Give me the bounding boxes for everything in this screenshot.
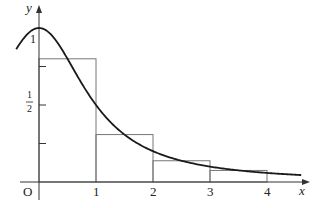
svg-text:2: 2 (27, 103, 32, 114)
svg-text:1: 1 (27, 89, 32, 100)
x-tick-label: 1 (93, 184, 100, 199)
curve (16, 28, 301, 175)
y-ticks (39, 67, 46, 144)
origin-label: O (23, 184, 32, 199)
rectangle-2 (96, 135, 153, 182)
x-tick-label: 3 (207, 184, 214, 199)
y-tick-label-half: 1 2 (26, 89, 33, 114)
x-tick-label: 2 (150, 184, 157, 199)
y-axis-arrow-icon (36, 5, 42, 13)
midpoint-rectangles (39, 59, 267, 182)
rectangle-3 (153, 161, 210, 182)
y-tick-label-1: 1 (30, 32, 36, 46)
x-tick-label: 4 (264, 184, 271, 199)
rectangle-1 (39, 59, 96, 182)
x-tick-labels: 1234 (93, 184, 271, 199)
x-axis-label: x (298, 183, 305, 198)
plot-canvas: y x O 1 1 2 1234 (0, 0, 320, 208)
y-axis-label: y (24, 0, 32, 15)
